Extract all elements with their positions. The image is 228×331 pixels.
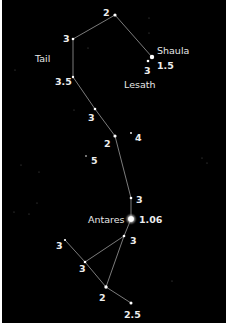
constellation-line: [115, 15, 152, 57]
star-point: [64, 239, 66, 241]
constellation-line: [106, 287, 131, 303]
background-star: [148, 17, 149, 18]
magnitude-label: 3.5: [55, 76, 72, 87]
magnitude-label: 1.06: [139, 214, 163, 225]
star-point: [113, 134, 116, 137]
magnitude-label: 3: [130, 235, 137, 246]
label-tail: Tail: [34, 53, 50, 64]
background-star: [171, 280, 172, 281]
star-point: [113, 13, 116, 16]
star-shaula: [150, 55, 154, 59]
label-lesath: Lesath: [124, 79, 156, 90]
magnitude-label: 2: [104, 138, 111, 149]
star-point: [72, 76, 74, 78]
magnitude-label: 5: [91, 155, 98, 166]
star-point: [130, 197, 133, 200]
constellation-line: [73, 77, 95, 109]
background-star: [87, 47, 88, 48]
magnitude-label: 3: [88, 112, 95, 123]
magnitude-label: 3: [79, 263, 86, 274]
magnitude-label: 3: [144, 65, 151, 76]
background-star: [73, 109, 74, 110]
constellation-line: [85, 262, 106, 287]
label-antares: Antares: [88, 214, 125, 225]
bottom-margin: [0, 323, 228, 331]
scorpius-star-chart: 231.533.5324531.0633322.5 TailShaulaLesa…: [2, 0, 226, 323]
label-shaula: Shaula: [157, 45, 189, 56]
star-point: [94, 108, 97, 111]
star-point: [130, 302, 133, 305]
magnitude-label: 3: [63, 33, 70, 44]
background-star: [20, 164, 21, 165]
star-point: [72, 38, 75, 41]
constellation-line: [73, 15, 115, 39]
constellation-lines: [65, 15, 152, 303]
constellation-line: [85, 236, 124, 262]
constellation-diagram: 231.533.5324531.0633322.5 TailShaulaLesa…: [2, 0, 226, 323]
star-point: [130, 132, 132, 134]
star-point: [123, 235, 126, 238]
magnitude-label: 3: [56, 240, 63, 251]
star-point: [85, 155, 87, 157]
magnitude-label: 1.5: [157, 60, 174, 71]
background-star: [36, 202, 37, 203]
star-point: [104, 285, 107, 288]
background-star: [38, 171, 39, 172]
stars: [64, 13, 154, 304]
constellation-line: [106, 236, 124, 287]
background-star: [13, 211, 14, 212]
background-star: [201, 157, 202, 158]
background-star: [28, 213, 29, 214]
constellation-line: [95, 109, 115, 136]
constellation-line: [65, 240, 85, 262]
magnitude-label: 4: [135, 132, 142, 143]
background-star: [148, 32, 149, 33]
magnitude-label: 3: [136, 194, 143, 205]
star-lesath: [147, 60, 150, 63]
magnitude-label: 2.5: [124, 309, 141, 320]
magnitude-label: 2: [103, 7, 110, 18]
star-antares: [128, 216, 134, 222]
background-star: [206, 162, 207, 163]
magnitude-label: 2: [99, 292, 106, 303]
constellation-line: [115, 136, 131, 198]
star-name-labels: TailShaulaLesathAntares: [34, 45, 189, 225]
background-star: [14, 69, 15, 70]
